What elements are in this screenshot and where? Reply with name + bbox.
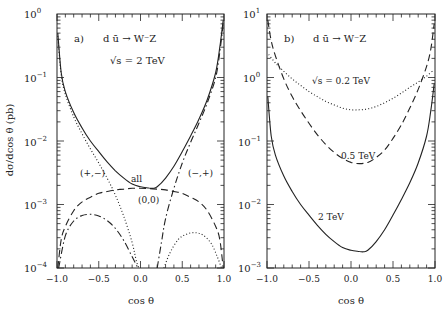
- ytick-label: 100: [243, 71, 260, 84]
- ytick-label: 10−2: [24, 135, 47, 148]
- ytick-label: 10−1: [238, 135, 261, 148]
- x-axis-label: cos θ: [128, 295, 154, 306]
- xtick-label: 0.0: [344, 274, 359, 284]
- xtick-label: −1.0: [256, 274, 278, 284]
- xtick-label: 1.0: [217, 274, 232, 284]
- curve--: [157, 24, 223, 268]
- xtick-label: −1.0: [46, 274, 68, 284]
- xtick-label: 1.0: [428, 274, 443, 284]
- annotation-0.2tev: √s = 0.2 TeV: [312, 76, 370, 86]
- curve--dashdot: [59, 214, 138, 268]
- ticks-a: [57, 14, 224, 268]
- curves-b: [268, 20, 434, 252]
- ticks-b: [267, 14, 435, 268]
- annotation-2tev: 2 TeV: [318, 212, 344, 222]
- xtick-label: −0.5: [88, 274, 110, 284]
- panel-label: a): [74, 33, 84, 44]
- ytick-label: 101: [243, 7, 260, 20]
- ytick-label: 100: [24, 7, 41, 20]
- ytick-label: 10−3: [238, 261, 261, 274]
- plot-frame-b: [267, 14, 435, 268]
- curve-all: [58, 20, 223, 188]
- process-label: d ū → W⁻Z: [103, 33, 156, 44]
- annotation-0.5tev: 0.5 TeV: [341, 151, 376, 161]
- process-label: d ū → W⁻Z: [313, 33, 366, 44]
- ytick-label: 10−4: [24, 261, 48, 274]
- figure: 100 10−1 10−2 10−3 10−4 −1.0 −0.5 0.0 0.…: [0, 0, 447, 312]
- panel-a: 100 10−1 10−2 10−3 10−4 −1.0 −0.5 0.0 0.…: [4, 7, 231, 306]
- ytick-label: 10−2: [238, 198, 261, 211]
- plot-frame-a: [57, 14, 224, 268]
- energy-label: √s = 2 TeV: [110, 55, 166, 66]
- xtick-label: −0.5: [298, 274, 320, 284]
- ytick-label: 10−3: [24, 198, 47, 211]
- xtick-label: 0.5: [386, 274, 401, 284]
- panel-b: 101 100 10−1 10−2 10−3 −1.0 −0.5 0.0 0.5…: [238, 7, 442, 306]
- ytick-label: 10−1: [24, 71, 47, 84]
- x-axis-label: cos θ: [338, 295, 364, 306]
- y-axis-label: dσ/dcos θ (pb): [4, 104, 15, 177]
- xtick-label: 0.5: [175, 274, 190, 284]
- panel-label: b): [284, 33, 294, 44]
- annotation-minus-plus: (−,+): [188, 168, 213, 178]
- annotation-plus-minus: (+,−): [80, 168, 105, 178]
- annotation-all: all: [131, 174, 142, 184]
- annotation-zero-zero: (0,0): [138, 195, 159, 205]
- xtick-label: 0.0: [133, 274, 148, 284]
- curve--: [58, 36, 139, 268]
- curve--dotted: [164, 233, 222, 268]
